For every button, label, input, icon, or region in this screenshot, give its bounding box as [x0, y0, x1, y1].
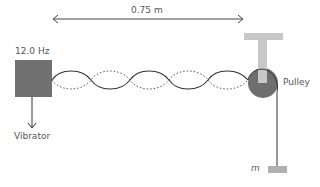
vibrator-block [15, 60, 52, 97]
support-post [258, 40, 267, 83]
vibrator-label: Vibrator [14, 131, 50, 141]
support-bar [244, 33, 283, 40]
length-arrow [53, 15, 243, 23]
pulley-label: Pulley [283, 77, 310, 87]
standing-wave-diagram [0, 0, 320, 187]
wave-dotted [52, 71, 248, 89]
mass-label: m [251, 163, 260, 173]
wave-solid [52, 71, 248, 89]
length-label: 0.75 m [131, 5, 163, 15]
hanging-mass [268, 166, 287, 173]
vibrator-arrow [28, 97, 36, 128]
frequency-label: 12.0 Hz [15, 46, 49, 56]
